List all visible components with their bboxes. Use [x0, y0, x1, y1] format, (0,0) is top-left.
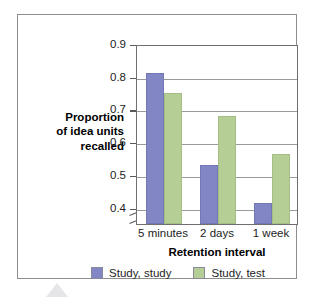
x-axis-title: Retention interval: [136, 246, 298, 258]
bar-2-days-study-test: [218, 116, 236, 224]
y-axis-tick-label: 0.6: [96, 137, 126, 149]
bar-1-week-study-test: [272, 154, 290, 224]
bar-5-minutes-study-study: [146, 73, 164, 224]
y-axis-tick: [130, 45, 136, 46]
x-axis-tick-label: 5 minutes: [136, 228, 190, 240]
y-axis-tick: [130, 110, 136, 111]
y-axis-tick-label: 0.9: [96, 39, 126, 51]
y-axis-tick: [130, 78, 136, 79]
x-axis-tick-label: 1 week: [244, 228, 298, 240]
bar-2-days-study-study: [200, 165, 218, 224]
y-axis-tick: [130, 209, 136, 210]
y-axis-tick-label: 0.5: [96, 170, 126, 182]
plot-area: [136, 45, 298, 225]
legend-label: Study, test: [211, 267, 264, 279]
figure-frame: Proportion of idea units recalled Retent…: [17, 14, 297, 279]
page-artifact: [46, 283, 68, 297]
bar-1-week-study-study: [254, 203, 272, 224]
y-axis-tick-label: 0.4: [96, 203, 126, 215]
legend-item: Study, study: [91, 267, 171, 279]
legend-item: Study, test: [193, 267, 264, 279]
legend-label: Study, study: [109, 267, 171, 279]
y-axis-tick-label: 0.7: [96, 104, 126, 116]
legend-swatch: [91, 267, 103, 279]
bar-5-minutes-study-test: [164, 93, 182, 224]
x-axis-tick-label: 2 days: [190, 228, 244, 240]
y-axis-tick: [130, 176, 136, 177]
y-axis-tick: [130, 143, 136, 144]
chart-legend: Study, studyStudy, test: [78, 267, 278, 279]
y-axis-tick-label: 0.8: [96, 72, 126, 84]
legend-swatch: [193, 267, 205, 279]
